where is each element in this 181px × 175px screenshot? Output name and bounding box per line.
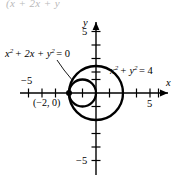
- lc-eq-mid: + y: [120, 65, 135, 76]
- sc-eq-exp2: 2: [51, 47, 55, 55]
- point-label-minus2-0: (−2, 0): [33, 97, 60, 109]
- y-axis-arrowhead: [93, 22, 100, 30]
- sc-eq-tail: = 0: [56, 48, 70, 59]
- cutoff-header-text: (x + 2x + y: [6, 0, 60, 9]
- point-marker-minus2-0: [66, 90, 72, 96]
- annotation-leader-line: [57, 60, 73, 81]
- x-axis-arrowhead: [160, 90, 168, 97]
- y-tick-label-positive-5: 5: [82, 26, 87, 37]
- x-axis-label: x: [165, 77, 171, 88]
- lc-eq-exp1: 2: [115, 64, 119, 72]
- y-tick-label-negative-5: −5: [76, 155, 87, 166]
- sc-eq-mid: + 2x + y: [15, 48, 52, 59]
- graph-figure: (x + 2x + y: [0, 0, 181, 175]
- lc-eq-exp2: 2: [134, 64, 138, 72]
- lc-eq-tail: = 4: [139, 65, 154, 76]
- x-tick-label-positive-5: 5: [147, 98, 152, 109]
- small-circle-equation-label: x2+ 2x + y2= 0: [4, 47, 70, 59]
- x-tick-label-negative-5: −5: [21, 75, 32, 86]
- sc-eq-exp1: 2: [10, 47, 14, 55]
- coordinate-plane-svg: y x −5 5 5 −5 (−2, 0) x2+ 2x + y2= 0 x2+…: [0, 0, 181, 175]
- svg-text:x2+ 2x + y2= 0: x2+ 2x + y2= 0: [4, 47, 70, 59]
